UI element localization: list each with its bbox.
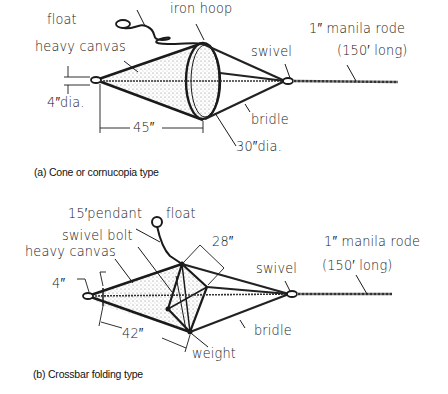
label-iron-hoop: iron hoop bbox=[170, 0, 232, 16]
label-rode-b-line2: (150′ long) bbox=[322, 257, 393, 273]
label-weight: weight bbox=[192, 345, 236, 361]
label-crossbar-28: 28″ bbox=[212, 233, 234, 249]
label-swivel-a: swivel bbox=[251, 43, 292, 59]
sea-anchor-diagram bbox=[0, 0, 448, 394]
label-heavy-canvas-a: heavy canvas bbox=[35, 38, 126, 54]
caption-a: (a) Cone or cornucopia type bbox=[34, 166, 159, 178]
label-float-b: float bbox=[166, 205, 196, 221]
label-heavy-canvas-b: heavy canvas bbox=[25, 243, 116, 259]
label-rode-a-line2: (150′ long) bbox=[337, 42, 408, 58]
label-bridle-b: bridle bbox=[254, 322, 292, 338]
label-small-dia-a: 4″dia. bbox=[47, 94, 85, 110]
label-float-a: float bbox=[47, 11, 77, 27]
label-swivel-bolt: swivel bolt bbox=[62, 227, 133, 243]
label-swivel-b: swivel bbox=[256, 260, 297, 276]
label-pendant: 15′pendant bbox=[68, 205, 142, 221]
caption-b: (b) Crossbar folding type bbox=[33, 368, 143, 380]
label-small-dia-b: 4″ bbox=[52, 275, 65, 291]
label-length-a: 45″ bbox=[133, 119, 155, 135]
label-hoop-dia: 30″dia. bbox=[236, 138, 282, 154]
label-rode-a-line1: 1″ manila rode bbox=[309, 20, 405, 36]
label-bridle-a: bridle bbox=[251, 111, 289, 127]
label-length-b: 42″ bbox=[122, 325, 144, 341]
label-rode-b-line1: 1″ manila rode bbox=[324, 233, 420, 249]
